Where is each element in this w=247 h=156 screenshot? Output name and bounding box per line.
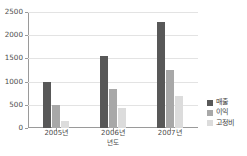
y-tick-label: 1000	[5, 78, 23, 85]
legend-label: 이익	[216, 109, 228, 116]
y-tick-label: 1500	[5, 55, 23, 62]
x-tick-label: 2005년	[44, 130, 68, 137]
bar-group	[157, 12, 183, 128]
legend-item[interactable]: 매출	[207, 99, 234, 106]
bar	[109, 89, 117, 128]
y-tick-mark	[25, 128, 28, 129]
y-tick-mark	[25, 12, 28, 13]
y-tick-label: 2000	[5, 32, 23, 39]
bar-chart: 05001000150020002500 2005년2006년2007년 년도 …	[0, 0, 247, 156]
y-tick-mark	[25, 58, 28, 59]
x-axis-title: 년도	[107, 140, 119, 147]
legend-item[interactable]: 이익	[207, 109, 234, 116]
y-tick-mark	[25, 82, 28, 83]
x-tick-label: 2006년	[101, 130, 125, 137]
y-tick-label: 500	[9, 101, 23, 108]
chart-legend: 매출이익고정비	[207, 99, 234, 127]
plot-area: 05001000150020002500	[28, 12, 198, 128]
chart-title-clipped	[14, 0, 164, 6]
legend-label: 고정비	[216, 120, 234, 127]
bar	[118, 108, 126, 128]
bar	[43, 82, 51, 128]
bar-group	[100, 12, 126, 128]
legend-swatch-icon	[207, 110, 213, 116]
x-tick-label: 2007년	[158, 130, 182, 137]
bar	[157, 22, 165, 128]
bar-group	[43, 12, 69, 128]
y-tick-mark	[25, 105, 28, 106]
legend-label: 매출	[216, 99, 228, 106]
legend-swatch-icon	[207, 100, 213, 106]
bar	[166, 70, 174, 128]
y-tick-label: 0	[18, 124, 23, 131]
bar	[52, 105, 60, 128]
y-tick-mark	[25, 35, 28, 36]
bar	[100, 56, 108, 128]
y-tick-label: 2500	[5, 8, 23, 15]
legend-swatch-icon	[207, 120, 213, 126]
bar	[175, 96, 183, 128]
legend-item[interactable]: 고정비	[207, 120, 234, 127]
bar	[61, 121, 69, 128]
